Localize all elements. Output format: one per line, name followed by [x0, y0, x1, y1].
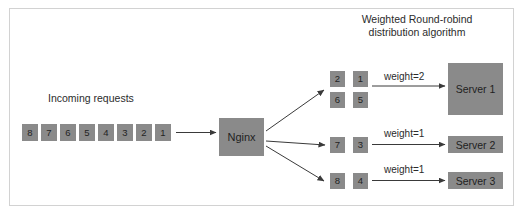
request-box: 4	[98, 124, 114, 141]
arrow-nginx-to-queue-1	[266, 90, 324, 131]
arrow-nginx-to-queue-2	[266, 141, 325, 145]
request-box: 5	[79, 124, 95, 141]
diagram-title-line-1: Weighted Round-robind	[343, 13, 491, 26]
diagram-title-line-2: distribution algorithm	[343, 26, 491, 39]
request-box: 1	[155, 124, 171, 141]
arrow-nginx-to-queue-3	[266, 146, 324, 181]
weighted-round-robin-diagram: Weighted Round-robind distribution algor…	[0, 0, 525, 216]
request-box: 8	[22, 124, 38, 141]
queue-box-branch-2: 3	[353, 137, 368, 153]
request-box: 6	[60, 124, 76, 141]
weight-label-branch-2: weight=1	[384, 127, 424, 140]
queue-box-branch-1: 1	[353, 71, 368, 87]
server-box-2: Server 2	[448, 136, 503, 153]
server-box-1: Server 1	[448, 63, 503, 115]
queue-box-branch-1: 2	[330, 71, 345, 87]
nginx-load-balancer-box: Nginx	[219, 118, 264, 156]
request-box: 3	[117, 124, 133, 141]
weight-label-branch-1: weight=2	[384, 70, 424, 83]
queue-box-branch-1: 6	[330, 92, 345, 108]
queue-box-branch-3: 4	[353, 173, 368, 189]
request-box: 2	[136, 124, 152, 141]
queue-box-branch-3: 8	[330, 173, 345, 189]
request-box: 7	[41, 124, 57, 141]
queue-box-branch-2: 7	[330, 137, 345, 153]
weight-label-branch-3: weight=1	[384, 163, 424, 176]
incoming-requests-label: Incoming requests	[48, 92, 134, 105]
server-box-3: Server 3	[448, 172, 503, 189]
queue-box-branch-1: 5	[353, 92, 368, 108]
